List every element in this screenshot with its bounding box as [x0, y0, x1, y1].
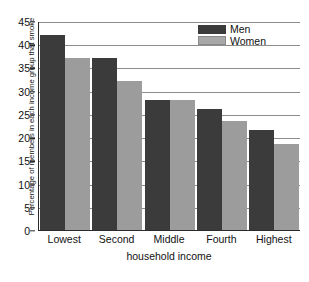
y-tick-label: 10 [18, 179, 30, 191]
bar-women-middle [170, 100, 195, 230]
y-tick-mark [30, 21, 35, 22]
bar-men-middle [145, 100, 170, 230]
legend: MenWomen [196, 22, 269, 48]
bar-men-second [92, 58, 117, 230]
y-tick-mark [30, 114, 35, 115]
bar-men-highest [249, 130, 274, 230]
legend-label: Women [230, 36, 266, 47]
y-tick-mark [30, 230, 35, 231]
bar-women-highest [274, 144, 299, 230]
bar-women-second [117, 81, 142, 230]
legend-label: Men [230, 24, 250, 35]
y-tick-label: 25 [18, 109, 30, 121]
bar-group [91, 22, 143, 230]
y-tick-mark [30, 137, 35, 138]
y-tick-mark [30, 45, 35, 46]
x-tick-label: Fourth [195, 233, 247, 245]
bar-group [196, 22, 248, 230]
x-tick-label: Second [90, 233, 142, 245]
y-axis-ticks: 051015202530354045 [0, 22, 36, 231]
y-tick-mark [30, 91, 35, 92]
bar-chart: Percentage of members in each income gro… [0, 0, 309, 282]
bar-group [248, 22, 300, 230]
bar-men-fourth [197, 109, 222, 230]
x-tick-label: Lowest [38, 233, 90, 245]
y-tick-label: 15 [18, 155, 30, 167]
y-tick-label: 40 [18, 39, 30, 51]
bar-women-lowest [65, 58, 90, 230]
bar-group [143, 22, 195, 230]
plot-area [38, 22, 300, 231]
bar-groups [39, 22, 300, 230]
y-tick-mark [30, 68, 35, 69]
y-tick-mark [30, 161, 35, 162]
y-tick-label: 30 [18, 86, 30, 98]
legend-swatch-icon [198, 36, 226, 45]
x-tick-label: Middle [143, 233, 195, 245]
bar-men-lowest [40, 35, 65, 230]
x-axis-title: household income [38, 250, 300, 262]
legend-item-men: Men [198, 24, 266, 35]
y-tick-label: 20 [18, 132, 30, 144]
bar-group [39, 22, 91, 230]
y-tick-mark [30, 184, 35, 185]
legend-item-women: Women [198, 36, 266, 47]
bar-women-fourth [222, 121, 247, 230]
x-axis-tick-labels: LowestSecondMiddleFourthHighest [38, 233, 300, 245]
y-tick-mark [30, 207, 35, 208]
y-tick-label: 35 [18, 62, 30, 74]
legend-swatch-icon [198, 25, 226, 34]
x-tick-label: Highest [248, 233, 300, 245]
y-tick-label: 45 [18, 16, 30, 28]
